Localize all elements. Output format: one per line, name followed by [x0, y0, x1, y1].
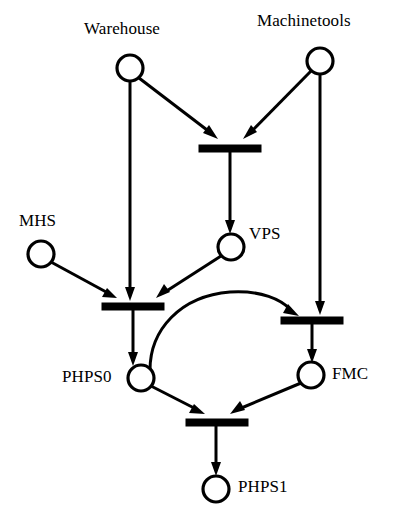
transition-t3[interactable]: [281, 317, 343, 324]
place-phps1[interactable]: [203, 476, 229, 502]
place-vps[interactable]: [218, 234, 244, 260]
petri-net-diagram: Warehouse Machinetools MHS VPS PHPS0 FMC…: [0, 0, 393, 522]
arc-machinetools-to-t3: [315, 74, 325, 315]
place-mhs[interactable]: [28, 241, 54, 267]
place-label-fmc: FMC: [332, 365, 368, 382]
arc-machinetools-to-t1: [243, 71, 311, 139]
arc-fmc-to-t4: [230, 383, 301, 414]
transition-t1[interactable]: [199, 145, 261, 152]
place-machinetools[interactable]: [307, 48, 333, 74]
arc-t1-to-vps: [225, 152, 235, 234]
arc-phps0-to-t3-curved: [150, 292, 299, 370]
arc-t3-to-fmc: [307, 324, 317, 363]
arc-warehouse-to-t2: [125, 81, 135, 301]
arc-t4-to-phps1: [211, 426, 221, 476]
place-label-machinetools: Machinetools: [257, 12, 351, 29]
arc-t2-to-phps0: [128, 310, 138, 366]
arc-warehouse-to-t1: [139, 78, 218, 139]
transition-t2[interactable]: [102, 303, 164, 310]
transition-t4[interactable]: [186, 419, 248, 426]
place-label-warehouse: Warehouse: [84, 20, 160, 37]
place-phps0[interactable]: [128, 365, 154, 391]
place-label-phps0: PHPS0: [62, 368, 112, 385]
place-label-phps1: PHPS1: [238, 478, 288, 495]
place-label-mhs: MHS: [19, 212, 56, 229]
place-warehouse[interactable]: [117, 55, 143, 81]
place-fmc[interactable]: [298, 362, 324, 388]
arc-phps0-to-t4: [151, 386, 205, 414]
arc-vps-to-t2: [156, 256, 221, 298]
petri-net-canvas: [0, 0, 393, 522]
place-label-vps: VPS: [249, 225, 281, 242]
arc-mhs-to-t2: [51, 262, 117, 298]
